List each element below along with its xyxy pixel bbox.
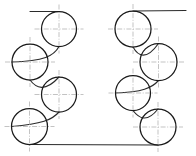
technical-drawing-canvas	[0, 0, 196, 156]
arc-left-1-2	[12, 47, 59, 63]
circles-group	[12, 11, 178, 145]
arc-right-2-3	[116, 81, 159, 94]
drawing-svg	[0, 0, 196, 156]
connecting-arcs-group	[12, 44, 159, 127]
center-marks-group	[5, 4, 185, 152]
arc-left-3-4	[12, 112, 60, 127]
top-right-tangent-line	[133, 11, 186, 12]
bottom-tangent-line	[30, 145, 159, 146]
